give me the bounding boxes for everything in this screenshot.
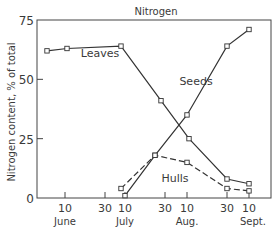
x-tick-label: 30	[98, 202, 112, 215]
series-label: Hulls	[161, 172, 188, 185]
data-point-marker	[247, 182, 251, 186]
x-tick-label: 10	[118, 202, 132, 215]
data-point-marker	[225, 44, 229, 48]
month-label: June	[53, 216, 76, 227]
data-point-marker	[247, 27, 251, 31]
data-point-marker	[65, 46, 69, 50]
x-tick-label: 10	[58, 202, 72, 215]
month-label: Aug.	[176, 216, 199, 227]
series-hulls: Hulls	[119, 153, 251, 193]
data-point-marker	[185, 160, 189, 164]
y-tick-label: 50	[19, 73, 34, 87]
month-label: July	[115, 216, 134, 227]
data-point-marker	[153, 153, 157, 157]
data-point-marker	[225, 186, 229, 190]
y-axis: 0255075	[19, 14, 43, 206]
data-point-marker	[45, 49, 49, 53]
x-tick-label: 30	[158, 202, 172, 215]
y-tick-label: 75	[19, 14, 34, 28]
y-axis-label: Nitrogen content, % of total	[6, 42, 17, 181]
data-point-marker	[119, 44, 123, 48]
series-label: Leaves	[81, 47, 120, 60]
data-point-marker	[185, 113, 189, 117]
y-tick-label: 25	[19, 133, 34, 147]
data-point-marker	[225, 177, 229, 181]
x-axis: 10301030103010JuneJulyAug.Sept.	[53, 192, 266, 227]
series-label: Seeds	[179, 75, 213, 88]
chart-title: Nitrogen	[134, 6, 177, 17]
y-tick-label: 0	[26, 192, 34, 206]
data-point-marker	[187, 136, 191, 140]
x-tick-label: 30	[220, 202, 234, 215]
data-point-marker	[123, 193, 127, 197]
month-label: Sept.	[240, 216, 266, 227]
series-line	[47, 46, 249, 184]
series-group: LeavesSeedsHulls	[45, 27, 251, 198]
x-tick-label: 10	[180, 202, 194, 215]
x-tick-label: 10	[242, 202, 256, 215]
data-point-marker	[247, 189, 251, 193]
data-point-marker	[119, 186, 123, 190]
data-point-marker	[159, 98, 163, 102]
plot-frame	[37, 20, 271, 198]
nitrogen-chart: Nitrogen 0255075 10301030103010JuneJulyA…	[0, 0, 278, 228]
